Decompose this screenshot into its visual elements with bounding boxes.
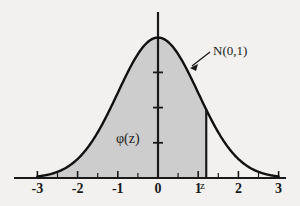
x-tick-label-neg1: -1 bbox=[108, 182, 128, 196]
curve-label-n01: N(0,1) bbox=[213, 44, 247, 57]
callout-arrow-line bbox=[192, 52, 210, 66]
x-tick-label-3: 3 bbox=[269, 182, 289, 196]
x-tick-label-2: 2 bbox=[228, 182, 248, 196]
normal-distribution-figure: N(0,1) φ(z) z -3-2-10123 bbox=[0, 0, 300, 206]
shaded-area-group bbox=[19, 38, 206, 178]
x-tick-label-neg3: -3 bbox=[27, 182, 47, 196]
density-label-phi: φ(z) bbox=[116, 132, 140, 146]
x-tick-label-neg2: -2 bbox=[68, 182, 88, 196]
x-tick-label-0: 0 bbox=[148, 182, 168, 196]
x-tick-label-1: 1 bbox=[188, 182, 208, 196]
callout-group bbox=[190, 52, 210, 71]
normal-curve-plot bbox=[0, 0, 300, 206]
cumulative-shaded-area bbox=[19, 38, 206, 178]
